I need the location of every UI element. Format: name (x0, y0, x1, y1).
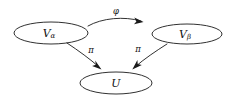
node-v-beta-subscript: β (186, 33, 191, 41)
edge-pi-right-group: π (132, 44, 167, 70)
edge-pi-left-line (67, 43, 99, 67)
node-v-beta-label: Vβ (179, 28, 191, 41)
edge-pi-left-label: π (87, 45, 94, 55)
edge-pi-left-group: π (67, 43, 102, 70)
commutative-diagram: φ π π Vα Vβ (0, 0, 232, 100)
diagram-canvas: φ π π Vα Vβ (0, 0, 232, 100)
edge-pi-right-label: π (134, 44, 141, 54)
edge-phi-line (88, 18, 141, 26)
edge-phi-arrowhead (134, 18, 144, 25)
node-v-beta-group: Vβ (152, 24, 222, 44)
node-v-alpha-subscript: α (51, 32, 56, 40)
node-u-group: U (80, 72, 152, 94)
node-u-label: U (111, 77, 121, 90)
edge-phi-label: φ (113, 6, 119, 16)
edge-phi-group: φ (88, 6, 144, 26)
node-v-alpha-group: Vα (14, 22, 88, 44)
node-v-alpha-label: Vα (43, 27, 56, 40)
edge-pi-right-arrowhead (132, 60, 142, 70)
